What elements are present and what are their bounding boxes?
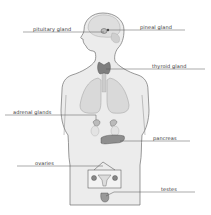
label-adrenal-glands: adrenal glands [13, 109, 51, 115]
left-ovary [92, 176, 97, 181]
label-pineal-gland: pineal gland [140, 24, 172, 30]
label-pituitary-gland: pituitary gland [33, 26, 71, 32]
label-testes: testes [161, 186, 177, 192]
pituitary-gland [101, 29, 107, 34]
testes [101, 193, 109, 202]
trachea [102, 72, 106, 92]
label-thyroid-gland: thyroid gland [152, 63, 187, 69]
right-kidney [111, 126, 119, 136]
label-ovaries: ovaries [35, 160, 54, 166]
label-pancreas: pancreas [153, 135, 177, 141]
right-ovary [113, 176, 118, 181]
left-kidney [91, 126, 99, 136]
endocrine-diagram [0, 0, 211, 215]
